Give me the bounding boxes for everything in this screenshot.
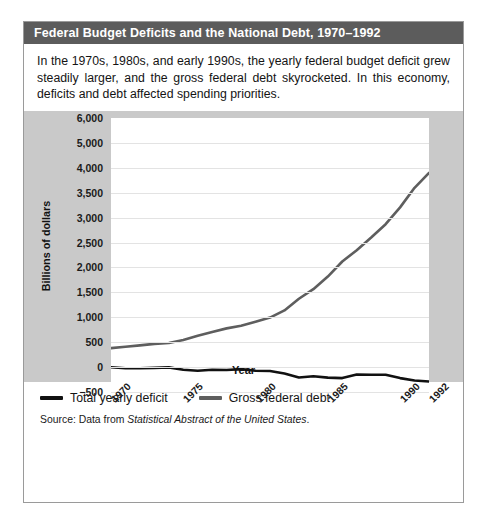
source-suffix: . xyxy=(306,414,309,425)
source-title: Statistical Abstract of the United State… xyxy=(127,414,306,425)
chart-panel: Billions of dollars 6,0005,0004,0003,500… xyxy=(24,111,463,382)
x-axis-tick-labels: 197019751980198519901992 xyxy=(24,111,463,382)
figure-container: Federal Budget Deficits and the National… xyxy=(23,21,464,503)
description-text: In the 1970s, 1980s, and early 1990s, th… xyxy=(37,53,450,103)
x-axis-title: Year xyxy=(24,364,463,376)
y-axis-tick-label: −500 xyxy=(79,386,103,398)
legend-swatch xyxy=(199,396,222,400)
legend-item: Total yearly deficit xyxy=(40,391,168,405)
legend-label: Gross federal debt xyxy=(229,391,330,405)
figure-title-bar: Federal Budget Deficits and the National… xyxy=(24,22,463,44)
source-prefix: Source: Data from xyxy=(40,414,127,425)
figure-description: In the 1970s, 1980s, and early 1990s, th… xyxy=(24,44,463,111)
page-title: Federal Budget Deficits and the National… xyxy=(34,26,381,40)
legend-swatch xyxy=(40,396,63,400)
source-note: Source: Data from Statistical Abstract o… xyxy=(40,414,447,425)
